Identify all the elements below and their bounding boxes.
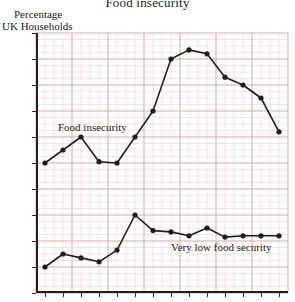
series-food-insecurity <box>42 47 281 165</box>
y-axis-caption-line2: UK Households <box>2 20 73 32</box>
x-axis-tick-mark <box>45 293 46 297</box>
data-point <box>78 255 83 260</box>
data-point <box>222 235 227 240</box>
data-point <box>276 233 281 238</box>
data-point <box>96 159 101 164</box>
data-point <box>114 160 119 165</box>
data-point <box>132 212 137 217</box>
data-point <box>258 95 263 100</box>
data-point <box>150 228 155 233</box>
data-point <box>150 108 155 113</box>
data-point <box>240 233 245 238</box>
x-axis-tick-mark <box>207 293 208 297</box>
x-axis-tick-mark <box>171 293 172 297</box>
x-axis-tick-mark <box>243 293 244 297</box>
series-label-food-insecurity: Food insecurity <box>58 121 127 133</box>
data-point <box>186 47 191 52</box>
data-point <box>168 229 173 234</box>
data-point <box>96 259 101 264</box>
data-point <box>114 248 119 253</box>
data-point <box>240 82 245 87</box>
data-point <box>222 75 227 80</box>
series-label-very-low-food-security: Very low food security <box>171 241 272 253</box>
x-axis-tick-mark <box>261 293 262 297</box>
y-axis-caption: Percentage UK Households <box>2 8 73 32</box>
data-point <box>60 251 65 256</box>
x-axis-tick-mark <box>225 293 226 297</box>
y-axis-caption-line1: Percentage <box>2 8 73 20</box>
x-axis-tick-mark <box>81 293 82 297</box>
data-point <box>42 160 47 165</box>
data-point <box>132 134 137 139</box>
x-axis-tick-mark <box>279 293 280 297</box>
y-axis-tick-mark <box>32 293 36 294</box>
data-point <box>168 56 173 61</box>
plot-area: 02468101214161820 <box>36 33 288 293</box>
data-point <box>276 129 281 134</box>
food-insecurity-chart: Food insecurity Percentage UK Households… <box>0 0 295 302</box>
x-axis-tick-mark <box>153 293 154 297</box>
data-point <box>78 134 83 139</box>
x-axis-tick-mark <box>99 293 100 297</box>
data-point <box>186 233 191 238</box>
data-point <box>60 147 65 152</box>
x-axis-tick-mark <box>63 293 64 297</box>
x-axis-tick-mark <box>117 293 118 297</box>
data-point <box>204 225 209 230</box>
data-point <box>258 233 263 238</box>
data-point <box>42 264 47 269</box>
data-point <box>204 51 209 56</box>
x-axis-tick-mark <box>135 293 136 297</box>
data-series-layer <box>36 33 288 293</box>
x-axis-tick-mark <box>189 293 190 297</box>
